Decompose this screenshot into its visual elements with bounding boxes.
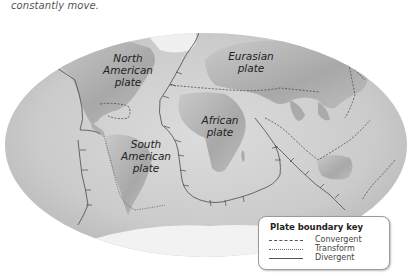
australia: [318, 155, 353, 180]
dotted-line-icon: [269, 249, 303, 250]
label-line: South: [116, 138, 176, 150]
label-line: American: [98, 64, 158, 76]
label-eurasian-plate: Eurasian plate: [222, 50, 280, 74]
label-line: African: [194, 114, 246, 126]
label-line: North: [98, 52, 158, 64]
dashed-line-icon: [269, 240, 303, 241]
key-title: Plate boundary key: [270, 222, 363, 232]
label-african-plate: African plate: [194, 114, 246, 138]
plate-boundary-key: Plate boundary key Convergent Transform …: [258, 216, 390, 270]
key-label: Divergent: [315, 253, 354, 262]
label-line: plate: [222, 62, 280, 74]
label-line: American: [116, 150, 176, 162]
label-north-american-plate: North American plate: [98, 52, 158, 88]
key-item-divergent: Divergent: [269, 254, 387, 263]
solid-line-icon: [269, 258, 303, 259]
label-line: Eurasian: [222, 50, 280, 62]
label-line: plate: [116, 162, 176, 174]
label-line: plate: [98, 76, 158, 88]
key-label: Convergent: [315, 235, 362, 244]
key-label: Transform: [315, 244, 355, 253]
label-south-american-plate: South American plate: [116, 138, 176, 174]
label-line: plate: [194, 126, 246, 138]
